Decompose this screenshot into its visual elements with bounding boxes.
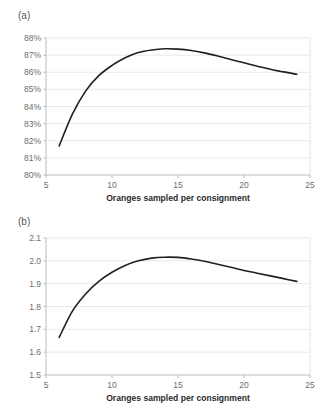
chart-b-xtick-label: 10: [107, 380, 117, 390]
chart-b-gridlines: [46, 238, 310, 375]
chart-a-ytick-label: 81%: [24, 153, 41, 163]
chart-b-series: [59, 257, 297, 337]
chart-a-series-line: [59, 49, 297, 146]
chart-a-ytick-label: 84%: [24, 102, 41, 112]
chart-a-ytick-label: 85%: [24, 84, 41, 94]
chart-b-series-line: [59, 257, 297, 337]
bottom-caption-fragment: [0, 406, 329, 416]
chart-a-ytick-label: 83%: [24, 119, 41, 129]
chart-a-ytick-label: 80%: [24, 170, 41, 180]
chart-b-xaxis-title: Oranges sampled per consignment: [106, 393, 250, 403]
chart-a-xtick-labels: 510152025: [44, 180, 315, 190]
chart-b-ytick-labels: 1.51.61.71.81.92.02.1: [29, 233, 41, 380]
chart-b-ytick-label: 1.8: [29, 302, 41, 312]
chart-a-xtick-label: 15: [173, 180, 183, 190]
chart-a-ytick-labels: 80%81%82%83%84%85%86%87%88%: [24, 33, 41, 180]
chart-a-plot-area: 80%81%82%83%84%85%86%87%88% 510152025 Or…: [0, 0, 329, 208]
chart-a-xtick-label: 25: [305, 180, 315, 190]
chart-b-axes: [44, 238, 311, 378]
chart-b-xtick-label: 15: [173, 380, 183, 390]
chart-a-svg: 80%81%82%83%84%85%86%87%88% 510152025 Or…: [0, 0, 329, 208]
chart-a-xaxis-title: Oranges sampled per consignment: [106, 193, 250, 203]
chart-b-ytick-label: 1.9: [29, 279, 41, 289]
chart-a-ytick-label: 86%: [24, 67, 41, 77]
chart-a-series: [59, 49, 297, 146]
chart-a-xtick-label: 10: [107, 180, 117, 190]
chart-a-ytick-label: 88%: [24, 33, 41, 43]
chart-b-xtick-label: 5: [44, 380, 49, 390]
chart-a-xtick-label: 5: [44, 180, 49, 190]
chart-b-ytick-label: 2.1: [29, 233, 41, 243]
chart-b-ytick-label: 1.5: [29, 370, 41, 380]
chart-b-xtick-label: 20: [239, 380, 249, 390]
chart-b-plot-area: 1.51.61.71.81.92.02.1 510152025 Oranges …: [0, 208, 329, 416]
chart-a-ytick-label: 82%: [24, 136, 41, 146]
chart-a-ytick-label: 87%: [24, 50, 41, 60]
chart-b-svg: 1.51.61.71.81.92.02.1 510152025 Oranges …: [0, 208, 329, 416]
chart-a-xtick-label: 20: [239, 180, 249, 190]
chart-a-axes: [44, 38, 311, 178]
chart-b-xtick-label: 25: [305, 380, 315, 390]
chart-b-ytick-label: 1.7: [29, 324, 41, 334]
chart-b-xtick-labels: 510152025: [44, 380, 315, 390]
chart-a-gridlines: [46, 38, 310, 175]
chart-panel-b: (b) 1.51.61.71.81.92.02.1 510152025 Oran…: [0, 208, 329, 416]
chart-b-ytick-label: 1.6: [29, 347, 41, 357]
chart-b-ytick-label: 2.0: [29, 256, 41, 266]
chart-panel-a: (a) 80%81%82%83%84%85%86%87%88% 51015202…: [0, 0, 329, 208]
